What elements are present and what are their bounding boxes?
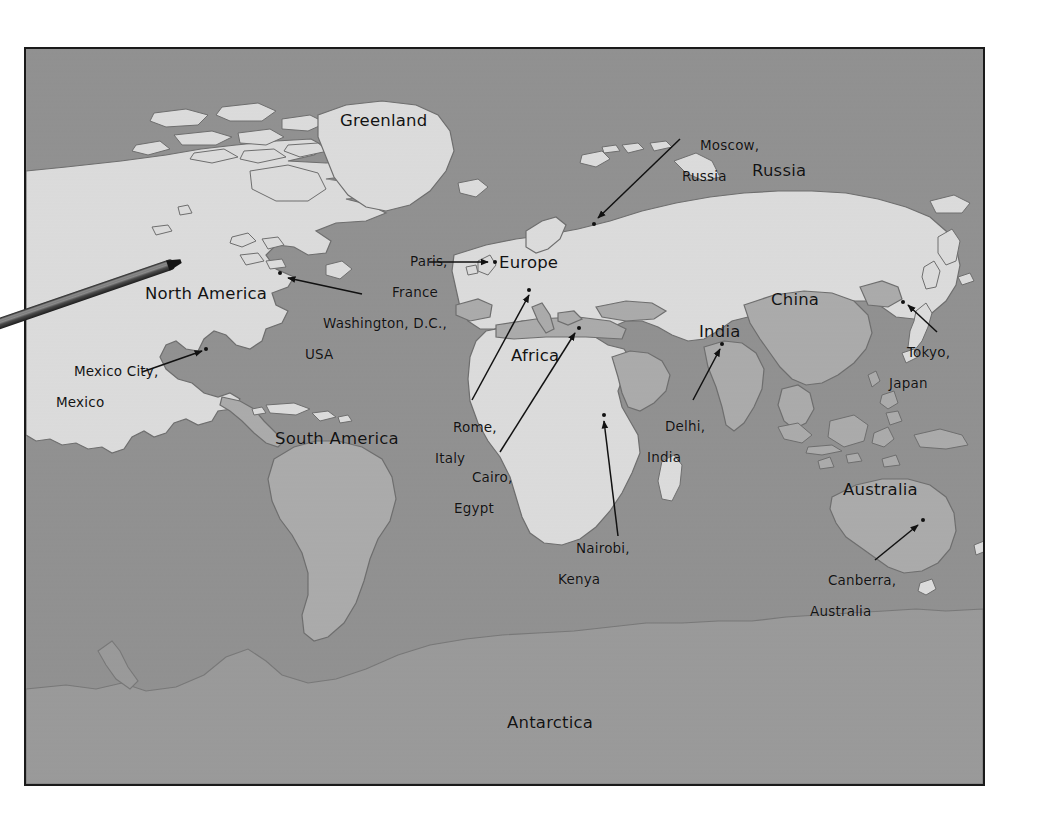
label-line-2: Russia <box>682 169 759 185</box>
label-tokyo-japan: Tokyo, Japan <box>889 329 950 422</box>
label-antarctica: Antarctica <box>507 714 593 732</box>
label-moscow-russia: Moscow, Russia <box>682 122 759 215</box>
island-arctic-ru-3 <box>602 145 620 153</box>
dot-moscow-russia <box>592 222 596 226</box>
dot-tokyo-japan <box>901 300 905 304</box>
label-russia: Russia <box>752 162 806 180</box>
label-africa: Africa <box>511 347 559 365</box>
label-line-1: Canberra, <box>828 572 896 588</box>
label-india: India <box>699 323 741 341</box>
label-line-2: Japan <box>889 376 950 392</box>
label-line-2: Australia <box>810 604 896 620</box>
dot-washington-dc <box>278 271 282 275</box>
label-south-america: South America <box>275 430 399 448</box>
dot-rome-italy <box>527 288 531 292</box>
label-line-1: Paris, <box>410 253 448 269</box>
label-line-2: Kenya <box>558 572 630 588</box>
label-line-2: Egypt <box>454 501 512 517</box>
label-line-1: Nairobi, <box>576 540 630 556</box>
label-nairobi-kenya: Nairobi, Kenya <box>558 525 630 618</box>
label-cairo-egypt: Cairo, Egypt <box>454 454 512 547</box>
dot-canberra-australia <box>921 518 925 522</box>
label-line-2: India <box>647 450 705 466</box>
label-line-1: Cairo, <box>472 469 512 485</box>
map-geography: .lt { fill:#dcdcdc; stroke:#6e6e6e; stro… <box>26 49 983 784</box>
label-line-2: USA <box>305 347 447 363</box>
dot-mexico-city <box>204 347 208 351</box>
label-line-1: Tokyo, <box>907 344 950 360</box>
dot-paris-france <box>493 260 497 264</box>
label-line-1: Delhi, <box>665 418 705 434</box>
dot-delhi-india <box>720 342 724 346</box>
label-line-1: Rome, <box>453 419 497 435</box>
label-north-america: North America <box>145 285 267 303</box>
dot-cairo-egypt <box>577 326 581 330</box>
label-mexico-city: Mexico City, Mexico <box>56 348 159 441</box>
label-paris-france: Paris, France <box>392 238 448 331</box>
world-map: .lt { fill:#dcdcdc; stroke:#6e6e6e; stro… <box>24 47 985 786</box>
label-line-1: Mexico City, <box>74 363 159 379</box>
label-delhi-india: Delhi, India <box>647 403 705 496</box>
island-misc-na-4 <box>266 259 286 269</box>
island-british-isles-2 <box>466 265 478 275</box>
label-greenland: Greenland <box>340 112 427 130</box>
label-canberra-australia: Canberra, Australia <box>810 557 896 650</box>
label-china: China <box>771 291 819 309</box>
label-line-2: France <box>392 285 448 301</box>
label-line-2: Mexico <box>56 395 159 411</box>
label-australia: Australia <box>843 481 918 499</box>
label-europe: Europe <box>499 254 558 272</box>
dot-nairobi-kenya <box>602 413 606 417</box>
label-line-1: Moscow, <box>700 137 759 153</box>
